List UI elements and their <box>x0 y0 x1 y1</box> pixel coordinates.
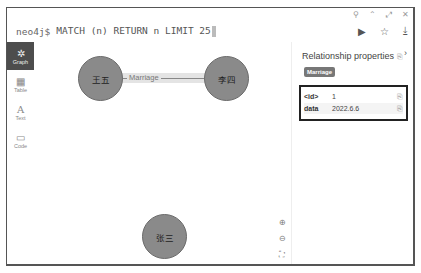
sidebar-item-graph[interactable]: ✲ Graph <box>7 42 34 70</box>
node-lisi[interactable]: 李四 <box>204 56 249 101</box>
zoom-controls: ⊕ ⊖ ⛶ <box>275 218 289 260</box>
property-key: data <box>304 105 332 112</box>
run-icon[interactable]: ▶ <box>358 26 366 37</box>
query-editor[interactable]: neo4j$ MATCH (n) RETURN n LIMIT 25 ▶ ☆ ⤓ <box>7 20 413 42</box>
query-input[interactable]: MATCH (n) RETURN n LIMIT 25 <box>56 25 215 37</box>
code-icon: ▭ <box>16 132 25 143</box>
text-cursor <box>212 26 216 37</box>
properties-table: <id> 1 ⎘ data 2022.6.6 ⎘ <box>299 85 408 121</box>
close-icon[interactable]: ✕ <box>402 10 409 20</box>
prompt-label: neo4j$ <box>16 26 50 37</box>
copy-icon[interactable]: ⎘ <box>397 93 403 101</box>
node-wangwu[interactable]: 王五 <box>78 56 123 101</box>
text-icon: A <box>17 104 24 115</box>
property-row: data 2022.6.6 ⎘ <box>304 103 403 114</box>
zoom-out-icon[interactable]: ⊖ <box>279 234 286 243</box>
view-sidebar: ✲ Graph ▦ Table A Text ▭ Code <box>7 42 35 264</box>
relationship-type-badge[interactable]: Marriage <box>304 67 335 77</box>
pin-icon[interactable]: ⚲ <box>353 10 359 20</box>
query-result-frame: ⚲ ⌃ ⤢ ✕ neo4j$ MATCH (n) RETURN n LIMIT … <box>6 7 415 266</box>
copy-icon[interactable]: ⎘ <box>397 53 403 60</box>
collapse-icon[interactable]: ⌃ <box>369 10 376 20</box>
relationship-label[interactable]: Marriage <box>127 73 161 82</box>
property-value: 2022.6.6 <box>332 105 397 112</box>
sidebar-item-code[interactable]: ▭ Code <box>7 126 34 154</box>
property-value: 1 <box>332 93 397 100</box>
node-zhangsan[interactable]: 张三 <box>142 214 187 259</box>
sidebar-item-table[interactable]: ▦ Table <box>7 70 34 98</box>
graph-icon: ✲ <box>17 48 25 59</box>
table-icon: ▦ <box>16 76 25 87</box>
favorite-icon[interactable]: ☆ <box>380 26 389 37</box>
property-row: <id> 1 ⎘ <box>304 91 403 102</box>
frame-controls: ⚲ ⌃ ⤢ ✕ <box>353 10 409 20</box>
relationship-properties-panel: Relationship properties ⎘ › Marriage <id… <box>291 42 413 264</box>
panel-title: Relationship properties ⎘ <box>302 51 403 61</box>
download-icon[interactable]: ⤓ <box>403 25 407 37</box>
zoom-in-icon[interactable]: ⊕ <box>279 218 286 227</box>
expand-icon[interactable]: ⤢ <box>386 10 392 20</box>
copy-icon[interactable]: ⎘ <box>397 105 403 113</box>
collapse-panel-icon[interactable]: › <box>404 48 407 58</box>
property-key: <id> <box>304 93 332 100</box>
graph-canvas[interactable]: ◀ Marriage 王五 李四 张三 ⊕ ⊖ ⛶ <box>35 42 289 264</box>
sidebar-item-text[interactable]: A Text <box>7 98 34 126</box>
fit-icon[interactable]: ⛶ <box>279 250 285 260</box>
